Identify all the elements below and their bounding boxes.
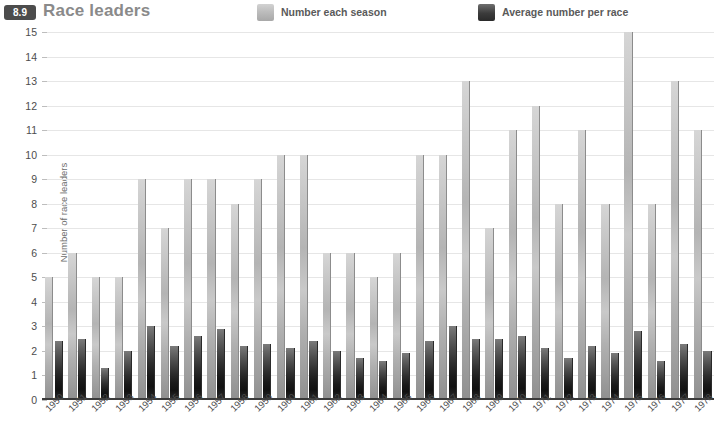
bar-number-each-season	[184, 179, 192, 400]
bar-average-number-per-race	[472, 339, 480, 400]
y-tick-label: 2	[31, 345, 37, 357]
plot-area: Number of race leaders 01234567891011121…	[42, 32, 714, 400]
bar-series-layer	[42, 32, 714, 400]
bar-group	[668, 32, 691, 400]
bar-group	[112, 32, 135, 400]
bar-number-each-season	[555, 204, 563, 400]
y-tick-label: 4	[31, 296, 37, 308]
bar-group	[65, 32, 88, 400]
bar-number-each-season	[300, 155, 308, 400]
bar-number-each-season	[138, 179, 146, 400]
bar-number-each-season	[92, 277, 100, 400]
bar-group	[575, 32, 598, 400]
bar-group	[297, 32, 320, 400]
legend-swatch-icon-number-each-season	[257, 4, 274, 21]
bar-number-each-season	[624, 32, 632, 400]
bar-group	[135, 32, 158, 400]
bar-average-number-per-race	[147, 326, 155, 400]
bar-group	[204, 32, 227, 400]
bar-number-each-season	[254, 179, 262, 400]
y-tick-label: 1	[31, 369, 37, 381]
bar-number-each-season	[161, 228, 169, 400]
bar-average-number-per-race	[194, 336, 202, 400]
bar-number-each-season	[115, 277, 123, 400]
y-tick-label: 7	[31, 222, 37, 234]
bar-number-each-season	[68, 253, 76, 400]
bar-number-each-season	[231, 204, 239, 400]
bar-number-each-season	[207, 179, 215, 400]
bar-group	[274, 32, 297, 400]
bar-group	[88, 32, 111, 400]
legend-label-number-each-season: Number each season	[281, 6, 387, 18]
bar-group	[413, 32, 436, 400]
y-tick-label: 12	[25, 100, 37, 112]
bar-group	[158, 32, 181, 400]
bar-group	[691, 32, 714, 400]
bar-number-each-season	[439, 155, 447, 400]
bar-number-each-season	[45, 277, 53, 400]
y-tick-label: 13	[25, 75, 37, 87]
bar-group	[621, 32, 644, 400]
bar-number-each-season	[601, 204, 609, 400]
bar-group	[598, 32, 621, 400]
bar-group	[390, 32, 413, 400]
y-tick-label: 3	[31, 320, 37, 332]
chart-header: 8.9 Race leaders Number each season Aver…	[0, 0, 718, 26]
bar-group	[459, 32, 482, 400]
bar-group	[42, 32, 65, 400]
section-number-badge: 8.9	[4, 5, 36, 20]
y-tick-label: 14	[25, 51, 37, 63]
bar-number-each-season	[346, 253, 354, 400]
bar-group	[181, 32, 204, 400]
bar-number-each-season	[509, 130, 517, 400]
bar-number-each-season	[671, 81, 679, 400]
y-tick-label: 8	[31, 198, 37, 210]
bar-average-number-per-race	[634, 331, 642, 400]
page-title: Race leaders	[43, 1, 150, 21]
bar-group	[343, 32, 366, 400]
bar-number-each-season	[393, 253, 401, 400]
bar-group	[251, 32, 274, 400]
bar-group	[529, 32, 552, 400]
bar-number-each-season	[370, 277, 378, 400]
chart-page: 8.9 Race leaders Number each season Aver…	[0, 0, 718, 435]
bar-average-number-per-race	[78, 339, 86, 400]
bar-group	[320, 32, 343, 400]
bar-group	[366, 32, 389, 400]
y-tick-label: 11	[26, 124, 37, 136]
y-tick-label: 9	[31, 173, 37, 185]
bar-group	[436, 32, 459, 400]
bar-average-number-per-race	[449, 326, 457, 400]
bar-average-number-per-race	[518, 336, 526, 400]
bar-number-each-season	[485, 228, 493, 400]
bar-number-each-season	[578, 130, 586, 400]
y-tick-label: 0	[31, 394, 37, 406]
legend-swatch-icon-average-number-per-race	[478, 4, 495, 21]
bar-number-each-season	[532, 106, 540, 400]
bar-number-each-season	[462, 81, 470, 400]
bar-group	[227, 32, 250, 400]
y-tick-label: 10	[25, 149, 37, 161]
y-tick-label: 15	[25, 26, 37, 38]
bar-group	[552, 32, 575, 400]
bar-group	[482, 32, 505, 400]
bar-number-each-season	[648, 204, 656, 400]
bar-number-each-season	[416, 155, 424, 400]
bar-group	[644, 32, 667, 400]
bar-group	[505, 32, 528, 400]
y-tick-label: 6	[31, 247, 37, 259]
bar-average-number-per-race	[217, 329, 225, 400]
bar-number-each-season	[277, 155, 285, 400]
legend-label-average-number-per-race: Average number per race	[502, 6, 628, 18]
bar-average-number-per-race	[495, 339, 503, 400]
bar-number-each-season	[694, 130, 702, 400]
y-tick-label: 5	[31, 271, 37, 283]
bar-number-each-season	[323, 253, 331, 400]
